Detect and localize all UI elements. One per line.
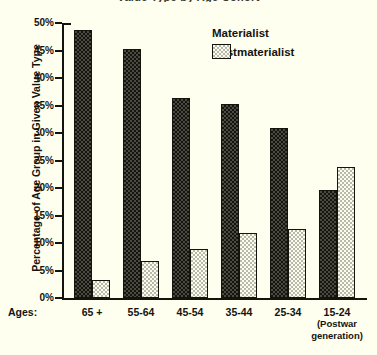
- y-axis-tick-label: 45%: [14, 46, 54, 56]
- y-axis-tick: [55, 132, 62, 134]
- bar-materialist: [172, 98, 190, 298]
- bar-chart: Value Type by Age Cohort Percentage of A…: [0, 0, 377, 355]
- bar-materialist: [270, 128, 288, 298]
- y-axis-tick-label: 40%: [14, 73, 54, 83]
- legend-label-materialist: Materialist: [212, 27, 269, 39]
- x-axis-line: [62, 298, 367, 300]
- y-axis-tick: [55, 187, 62, 189]
- x-axis-sublabel-text: generation): [297, 330, 377, 342]
- legend-item-materialist: Materialist: [212, 23, 294, 42]
- bar-postmaterialist: [141, 261, 159, 298]
- bar-materialist: [221, 104, 239, 298]
- y-axis-tick: [55, 215, 62, 217]
- y-axis-tick: [55, 297, 62, 299]
- y-axis-top-cap: [62, 23, 71, 25]
- x-axis-sublabel-text: (Postwar: [297, 318, 377, 330]
- y-axis-tick-label: 5%: [14, 266, 54, 276]
- y-axis-tick: [55, 160, 62, 162]
- x-axis-label: 15-24(Postwargeneration): [297, 306, 377, 342]
- y-axis-tick: [55, 105, 62, 107]
- bar-postmaterialist: [288, 229, 306, 298]
- y-axis-line: [62, 23, 64, 300]
- y-axis-tick: [55, 270, 62, 272]
- bar-materialist: [74, 30, 92, 298]
- y-axis-tick-label: 25%: [14, 156, 54, 166]
- bar-postmaterialist: [337, 167, 355, 298]
- chart-legend: Materialist Postmaterialist: [212, 23, 294, 61]
- y-axis-tick-label: 0%: [14, 293, 54, 303]
- legend-swatch-postmaterialist: [212, 44, 231, 59]
- y-axis-tick-label: 20%: [14, 183, 54, 193]
- chart-title: Value Type by Age Cohort: [0, 0, 377, 2]
- y-axis-tick: [55, 77, 62, 79]
- y-axis-tick: [55, 50, 62, 52]
- legend-item-postmaterialist: Postmaterialist: [212, 42, 294, 61]
- bar-materialist: [123, 49, 141, 298]
- y-axis-tick: [55, 22, 62, 24]
- bar-postmaterialist: [92, 280, 110, 298]
- bar-postmaterialist: [239, 233, 257, 298]
- x-axis-label-text: 15-24: [324, 306, 351, 318]
- y-axis-tick-label: 35%: [14, 101, 54, 111]
- plot-area: 50%45%40%35%30%25%20%15%10%5%0%: [62, 23, 367, 300]
- x-axis-label-text: 65 +: [82, 306, 103, 318]
- y-axis-tick-label: 15%: [14, 211, 54, 221]
- y-axis-tick-label: 10%: [14, 238, 54, 248]
- y-axis-tick: [55, 242, 62, 244]
- x-axis-prefix-label: Ages:: [8, 306, 37, 318]
- y-axis-tick-label: 30%: [14, 128, 54, 138]
- bar-materialist: [319, 190, 337, 298]
- bar-postmaterialist: [190, 249, 208, 299]
- y-axis-tick-label: 50%: [14, 18, 54, 28]
